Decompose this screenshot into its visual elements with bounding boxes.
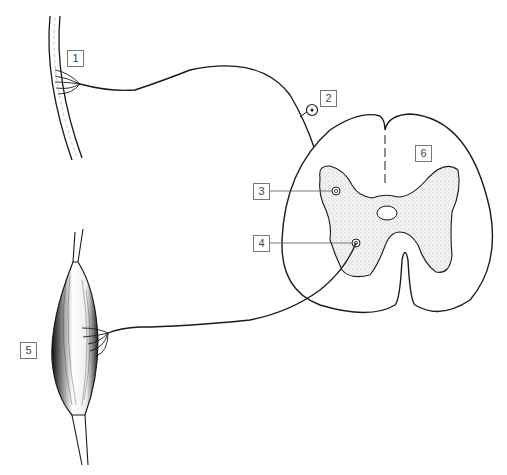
label-3: 3 — [253, 183, 270, 200]
sensory-cell-body — [300, 105, 318, 118]
label-2: 2 — [320, 90, 337, 107]
label-1: 1 — [67, 50, 84, 67]
interneuron-synapse — [332, 187, 340, 195]
label-4: 4 — [253, 235, 270, 252]
central-canal — [377, 206, 397, 220]
label-6: 6 — [415, 145, 432, 162]
skeletal-muscle — [52, 229, 98, 465]
label-5: 5 — [20, 342, 37, 359]
